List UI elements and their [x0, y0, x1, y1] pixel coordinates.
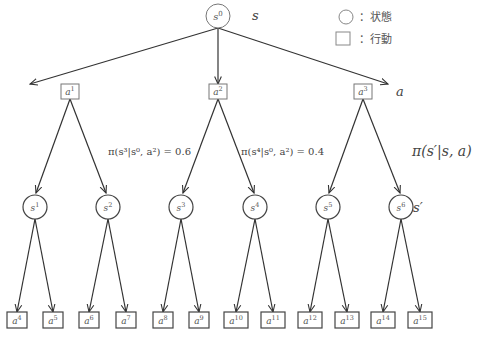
action-node-a9: a9 [189, 312, 209, 328]
action-node-a2: a2 [209, 84, 227, 99]
legend-square-icon [336, 32, 350, 45]
action-node-a11: a11 [261, 312, 285, 328]
edges [17, 28, 420, 312]
action-node-a6: a6 [79, 312, 99, 328]
side-label-state: s [252, 8, 259, 23]
action-node-a3: a3 [354, 84, 372, 99]
action-node-a14: a14 [371, 312, 395, 328]
edge-label-s4: π(s⁴|s⁰, a²) = 0.4 [241, 146, 324, 158]
state-node-s3: s3 [169, 195, 193, 219]
state-node-s0: s0 [206, 4, 230, 28]
action-node-a12: a12 [298, 312, 322, 328]
state-node-s6: s6 [389, 195, 413, 219]
action-node-a4: a4 [7, 312, 27, 328]
legend-circle-icon [339, 10, 353, 24]
state-node-s2: s2 [96, 195, 120, 219]
edge-label-s3: π(s³|s⁰, a²) = 0.6 [108, 146, 191, 158]
side-label-action: a [396, 84, 404, 99]
action-node-a13: a13 [335, 312, 359, 328]
legend-action-label: ：行動 [359, 32, 392, 46]
action-node-a10: a10 [224, 312, 248, 328]
action-node-a15: a15 [408, 312, 432, 328]
action-node-a5: a5 [43, 312, 63, 328]
action-node-a7: a7 [116, 312, 136, 328]
legend: ：状態 ：行動 [336, 10, 392, 46]
state-node-s1: s1 [23, 195, 47, 219]
action-node-a1: a1 [61, 84, 79, 99]
tree-diagram: s0 a1 a2 a3 s1 s2 s3 s4 s5 s6 [0, 0, 488, 337]
state-node-s4: s4 [243, 195, 267, 219]
action-node-a8: a8 [153, 312, 173, 328]
legend-state-label: ：状態 [359, 10, 392, 24]
side-label-transition: π(s′|s, a) [411, 143, 472, 160]
side-label-next-state: s′ [413, 200, 423, 215]
state-node-s5: s5 [316, 195, 340, 219]
